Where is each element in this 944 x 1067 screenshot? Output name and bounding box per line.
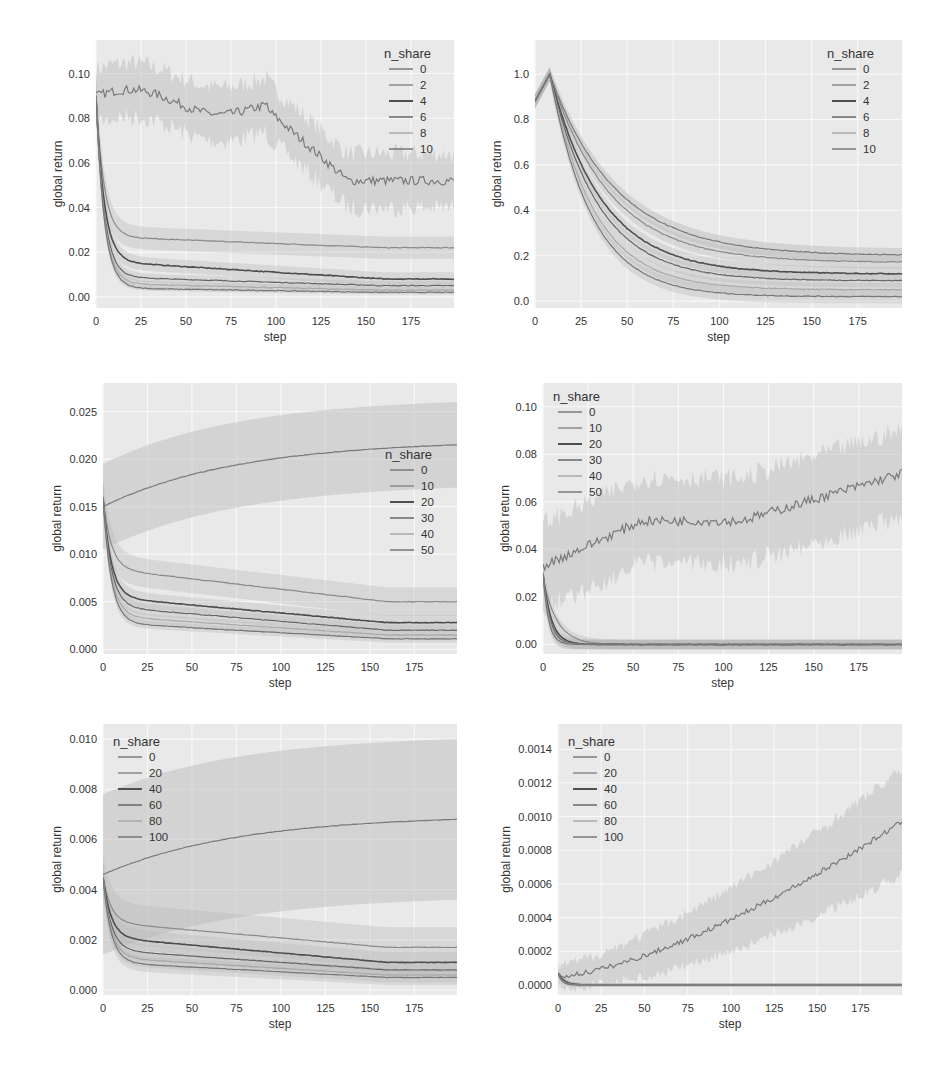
legend-entry: 40 (604, 783, 617, 795)
x-tick-label: 175 (851, 1002, 869, 1014)
legend-entry: 60 (604, 799, 617, 811)
y-tick-label: 0.0006 (518, 878, 552, 890)
legend-entry: 100 (604, 831, 623, 843)
x-axis-label: step (719, 1017, 742, 1031)
x-tick-label: 50 (638, 1002, 650, 1014)
y-tick-label: 0.0012 (518, 777, 552, 789)
y-tick-label: 0.0002 (518, 945, 552, 957)
x-tick-label: 0 (555, 1002, 561, 1014)
legend-entry: 80 (604, 815, 617, 827)
x-tick-label: 100 (722, 1002, 740, 1014)
y-tick-label: 0.0004 (518, 912, 552, 924)
x-tick-label: 150 (808, 1002, 826, 1014)
y-tick-label: 0.0000 (518, 979, 552, 991)
y-tick-label: 0.0010 (518, 811, 552, 823)
y-tick-label: 0.0008 (518, 844, 552, 856)
x-tick-label: 125 (765, 1002, 783, 1014)
y-axis-label: global return (499, 826, 513, 893)
x-tick-label: 75 (682, 1002, 694, 1014)
x-tick-label: 25 (595, 1002, 607, 1014)
y-tick-label: 0.0014 (518, 743, 552, 755)
legend-title: n_share (568, 734, 615, 749)
legend-entry: 0 (604, 751, 610, 763)
legend-entry: 20 (604, 767, 617, 779)
